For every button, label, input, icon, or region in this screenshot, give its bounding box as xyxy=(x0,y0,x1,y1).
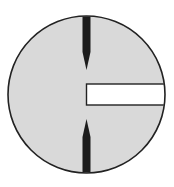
reticle-diagram xyxy=(0,0,174,187)
horizontal-slot xyxy=(87,84,171,105)
